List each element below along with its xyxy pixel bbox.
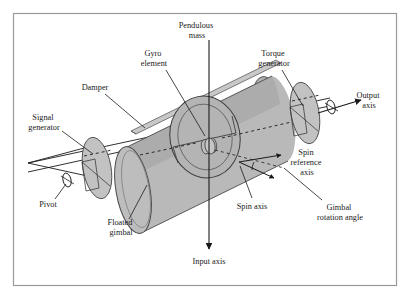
label-torque-generator: Torque generator (258, 49, 290, 68)
label-damper: Damper (82, 83, 109, 92)
label-spin-axis: Spin axis (237, 202, 268, 211)
label-pivot: Pivot (39, 200, 57, 209)
label-floated-gimbal: Floated gimbal (108, 218, 135, 237)
label-signal-generator: Signal generator (28, 113, 60, 132)
label-input-axis: Input axis (193, 257, 226, 266)
gyro-diagram: Pendulous mass Gyro element Torque gener… (0, 0, 410, 299)
figure-root: Pendulous mass Gyro element Torque gener… (0, 0, 410, 299)
